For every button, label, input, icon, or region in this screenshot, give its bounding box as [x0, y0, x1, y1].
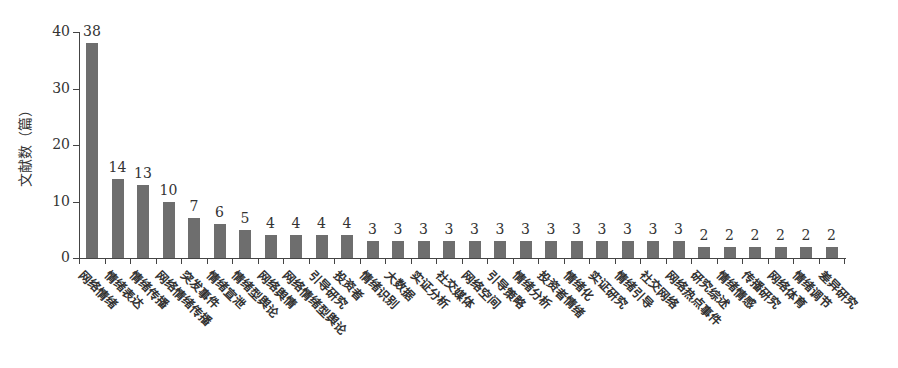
x-tick — [589, 258, 590, 264]
bar — [290, 235, 302, 258]
x-tick — [105, 258, 106, 264]
x-tick — [283, 258, 284, 264]
x-tick — [130, 258, 131, 264]
bar — [443, 241, 455, 258]
bar — [214, 224, 226, 258]
x-tick — [564, 258, 565, 264]
bar — [698, 247, 710, 258]
bar — [137, 185, 149, 258]
bar — [163, 202, 175, 259]
x-tick — [385, 258, 386, 264]
bar — [112, 179, 124, 258]
bar — [341, 235, 353, 258]
y-axis-label: 文献数（篇） — [14, 103, 34, 187]
y-tick-label: 10 — [40, 193, 70, 209]
y-tick-label: 40 — [40, 23, 70, 39]
bar — [86, 43, 98, 258]
bar — [571, 241, 583, 258]
x-tick — [819, 258, 820, 264]
y-tick-label: 0 — [40, 249, 70, 265]
x-tick — [793, 258, 794, 264]
bar — [673, 241, 685, 258]
bar — [265, 235, 277, 258]
y-axis — [79, 32, 80, 258]
bar — [545, 241, 557, 258]
x-tick — [615, 258, 616, 264]
x-tick — [334, 258, 335, 264]
bar — [800, 247, 812, 258]
bar — [494, 241, 506, 258]
bar — [316, 235, 328, 258]
bar — [188, 218, 200, 258]
bar — [520, 241, 532, 258]
bar — [418, 241, 430, 258]
x-tick — [207, 258, 208, 264]
x-tick — [538, 258, 539, 264]
y-tick — [73, 145, 79, 146]
x-tick — [181, 258, 182, 264]
x-tick — [156, 258, 157, 264]
bar-value-label: 2 — [817, 227, 847, 243]
x-tick — [640, 258, 641, 264]
x-tick — [436, 258, 437, 264]
x-tick — [844, 258, 845, 264]
bar-value-label: 10 — [154, 182, 184, 198]
x-tick — [742, 258, 743, 264]
bar — [775, 247, 787, 258]
x-tick — [768, 258, 769, 264]
bar — [749, 247, 761, 258]
bar — [724, 247, 736, 258]
bar — [367, 241, 379, 258]
y-tick — [73, 202, 79, 203]
x-tick — [79, 258, 80, 264]
x-tick — [360, 258, 361, 264]
bar-value-label: 38 — [77, 23, 107, 39]
x-tick — [487, 258, 488, 264]
y-tick-label: 20 — [40, 136, 70, 152]
x-tick — [258, 258, 259, 264]
bar — [596, 241, 608, 258]
bar — [647, 241, 659, 258]
x-tick — [513, 258, 514, 264]
bar — [826, 247, 838, 258]
x-tick — [691, 258, 692, 264]
x-tick — [462, 258, 463, 264]
y-tick — [73, 89, 79, 90]
x-tick — [666, 258, 667, 264]
bar-value-label: 13 — [128, 165, 158, 181]
y-tick-label: 30 — [40, 80, 70, 96]
bar — [622, 241, 634, 258]
x-tick — [717, 258, 718, 264]
bar — [469, 241, 481, 258]
bar — [239, 230, 251, 258]
x-tick — [411, 258, 412, 264]
x-tick — [309, 258, 310, 264]
x-tick — [232, 258, 233, 264]
bar-chart: 文献数（篇） 010203040 38网络情绪14情绪表达13情绪传播10网络情… — [0, 0, 898, 368]
bar — [392, 241, 404, 258]
